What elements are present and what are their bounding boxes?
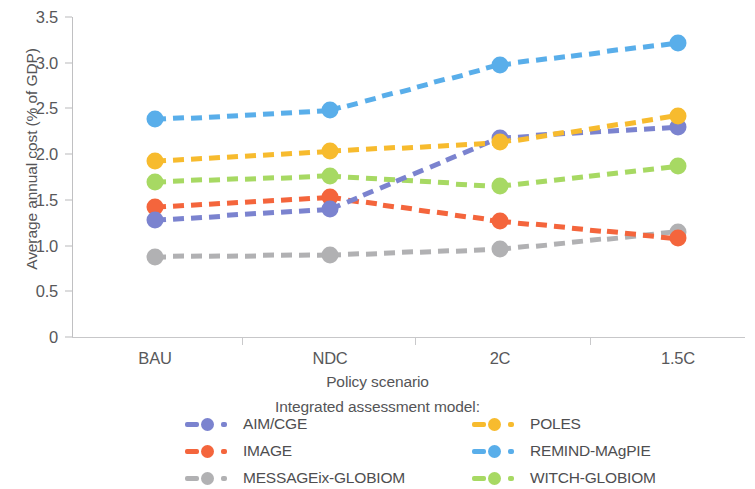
data-point: [322, 102, 339, 119]
line-dash: [299, 109, 310, 114]
line-dash: [553, 54, 564, 60]
data-point: [670, 34, 687, 51]
line-dash: [434, 77, 446, 84]
legend-label: REMIND-MAgPIE: [530, 442, 651, 460]
legend-swatch: [185, 443, 239, 459]
legend-swatch: [472, 416, 526, 432]
legend-item-poles[interactable]: POLES: [472, 415, 581, 433]
legend-label: POLES: [530, 415, 581, 433]
line-dash: [468, 68, 480, 75]
legend-dash-right: [221, 449, 227, 454]
legend-item-messageix-globiom[interactable]: MESSAGEix-GLOBIOM: [185, 469, 405, 487]
line-dash: [625, 45, 636, 51]
legend-item-witch-globiom[interactable]: WITCH-GLOBIOM: [472, 469, 656, 487]
line-dash: [535, 56, 546, 62]
data-point: [492, 56, 509, 73]
legend-dash-right: [508, 449, 514, 454]
legend-label: WITCH-GLOBIOM: [530, 469, 656, 487]
legend-dash-left: [472, 422, 486, 427]
legend-swatch: [185, 470, 239, 486]
line-dash: [382, 91, 394, 98]
line-dash: [209, 114, 220, 119]
legend-label: AIM/CGE: [243, 415, 307, 433]
legend-marker-dot: [488, 472, 501, 485]
legend-label: IMAGE: [243, 442, 292, 460]
legend-dash-right: [508, 476, 514, 481]
legend-marker-dot: [488, 445, 501, 458]
legend-item-remind-magpie[interactable]: REMIND-MAgPIE: [472, 442, 651, 460]
legend-dash-right: [221, 422, 227, 427]
line-dash: [191, 115, 202, 120]
line-dash: [347, 101, 359, 108]
legend-dash-left: [472, 476, 486, 481]
line-dash: [364, 96, 376, 103]
legend-dash-left: [185, 422, 199, 427]
legend-item-aim-cge[interactable]: AIM/CGE: [185, 415, 307, 433]
line-dash: [451, 72, 463, 79]
legend-marker-dot: [201, 472, 214, 485]
line-dash: [518, 59, 529, 65]
line-dash: [227, 113, 238, 118]
line-dash: [245, 112, 256, 117]
legend-marker-dot: [201, 445, 214, 458]
legend-dash-left: [185, 449, 199, 454]
line-dash: [263, 111, 274, 116]
chart-figure: 00.51.01.52.02.53.03.5BAUNDC2C1.5CAverag…: [0, 0, 755, 489]
legend-swatch: [185, 416, 239, 432]
legend-dash-right: [221, 476, 227, 481]
line-dash: [173, 116, 184, 121]
line-dash: [643, 43, 654, 49]
line-dash: [416, 82, 428, 89]
legend-title: Integrated assessment model:: [0, 398, 755, 416]
legend-swatch: [472, 443, 526, 459]
legend-dash-left: [185, 476, 199, 481]
legend-marker-dot: [201, 418, 214, 431]
legend-marker-dot: [488, 418, 501, 431]
legend-label: MESSAGEix-GLOBIOM: [243, 469, 405, 487]
legend-dash-left: [472, 449, 486, 454]
line-dash: [607, 48, 618, 54]
data-point: [147, 111, 164, 128]
line-dash: [399, 86, 411, 93]
legend-swatch: [472, 470, 526, 486]
legend-dash-right: [508, 422, 514, 427]
line-dash: [589, 50, 600, 56]
line-dash: [281, 110, 292, 115]
line-dash: [571, 52, 582, 58]
legend-item-image[interactable]: IMAGE: [185, 442, 292, 460]
